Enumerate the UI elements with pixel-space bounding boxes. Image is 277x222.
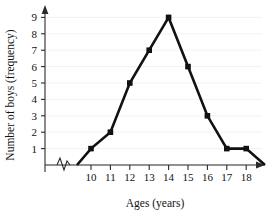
x-tick-label-10: 10 bbox=[86, 171, 98, 183]
x-axis-title: Ages (years) bbox=[126, 197, 185, 210]
y-tick-label-9: 9 bbox=[32, 11, 38, 23]
x-tick-label-17: 17 bbox=[221, 171, 233, 183]
x-axis: 10 11 12 13 14 15 16 17 18 bbox=[45, 158, 265, 183]
data-point-15 bbox=[185, 64, 191, 70]
y-tick-label-1: 1 bbox=[32, 143, 38, 155]
frequency-polygon-figure: 1 2 3 4 5 6 7 8 9 10 11 12 13 bbox=[0, 0, 277, 222]
y-tick-label-7: 7 bbox=[32, 44, 38, 56]
gridlines bbox=[45, 17, 262, 165]
x-tick-label-15: 15 bbox=[183, 171, 195, 183]
data-point-14 bbox=[166, 15, 172, 21]
data-point-11 bbox=[108, 129, 114, 135]
x-tick-label-18: 18 bbox=[241, 171, 253, 183]
y-tick-label-6: 6 bbox=[32, 61, 38, 73]
data-point-10 bbox=[88, 146, 94, 152]
y-tick-label-4: 4 bbox=[32, 93, 38, 105]
x-tick-label-11: 11 bbox=[105, 171, 116, 183]
x-tick-label-13: 13 bbox=[144, 171, 156, 183]
y-tick-label-2: 2 bbox=[32, 126, 38, 138]
x-axis-break-icon bbox=[57, 158, 70, 170]
data-point-18 bbox=[243, 146, 249, 152]
y-axis: 1 2 3 4 5 6 7 8 9 bbox=[32, 5, 49, 172]
x-tick-label-16: 16 bbox=[202, 171, 214, 183]
y-tick-label-3: 3 bbox=[32, 110, 38, 122]
data-point-16 bbox=[205, 113, 211, 119]
y-axis-title: Number of boys (frequency) bbox=[4, 29, 17, 160]
series-line-number-of-boys bbox=[77, 17, 265, 165]
x-tick-label-12: 12 bbox=[124, 171, 135, 183]
x-tick-label-14: 14 bbox=[163, 171, 175, 183]
data-point-17 bbox=[224, 146, 230, 152]
data-series-frequency-polygon bbox=[77, 15, 265, 165]
y-tick-label-5: 5 bbox=[32, 77, 38, 89]
chart-canvas: 1 2 3 4 5 6 7 8 9 10 11 12 13 bbox=[0, 0, 277, 222]
y-tick-label-8: 8 bbox=[32, 28, 38, 40]
data-point-13 bbox=[146, 47, 152, 53]
y-axis-arrow-icon bbox=[42, 5, 49, 14]
data-point-12 bbox=[127, 80, 133, 86]
